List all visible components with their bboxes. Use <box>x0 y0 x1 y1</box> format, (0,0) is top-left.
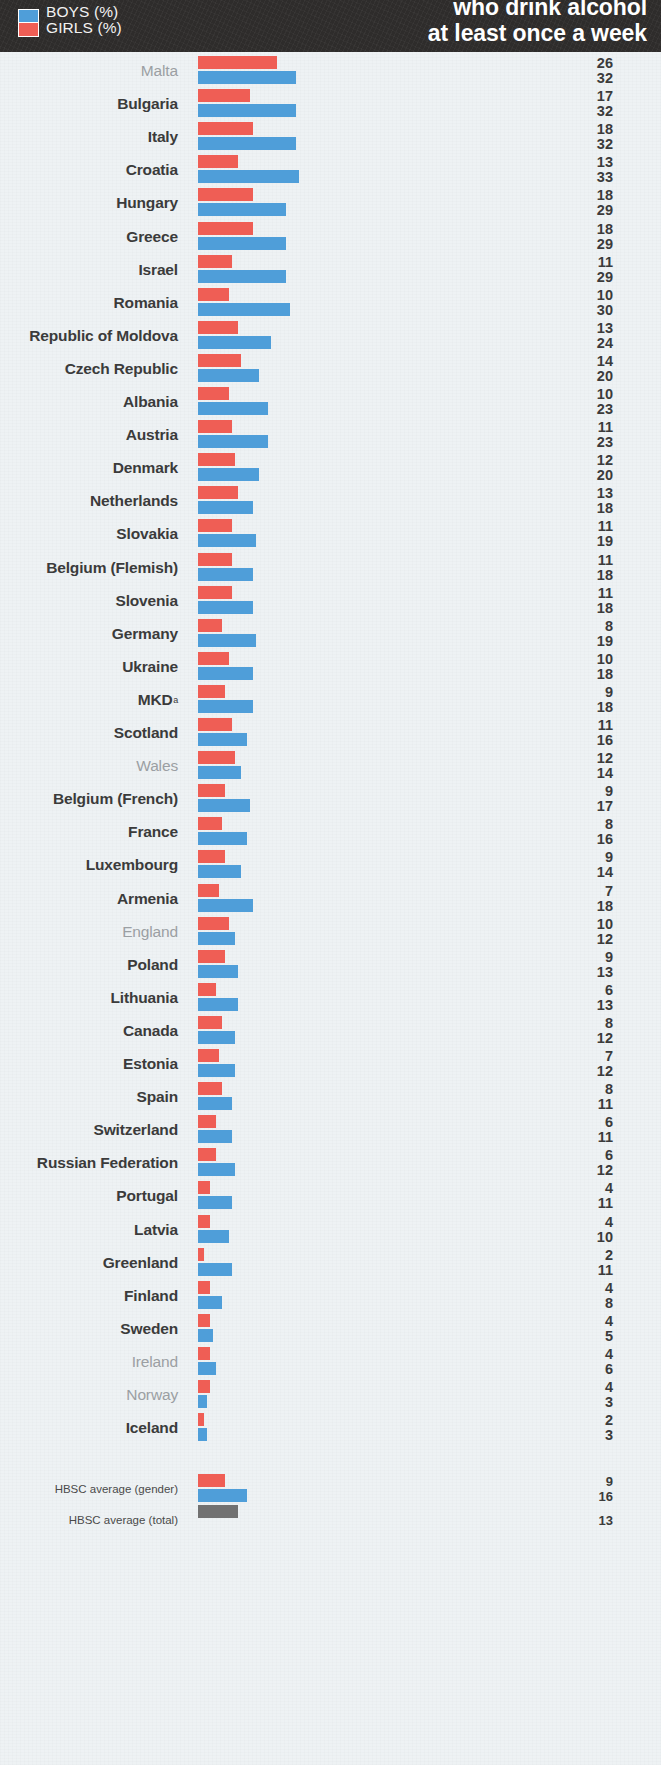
value-pair: 612 <box>520 1146 613 1180</box>
chart-row: Slovakia1119 <box>0 517 661 551</box>
value-girls: 8 <box>605 1016 613 1031</box>
bar-group <box>198 1016 235 1046</box>
value-pair: 718 <box>520 882 613 916</box>
value-pair: 613 <box>520 981 613 1015</box>
chart-row: Germany819 <box>0 617 661 651</box>
bar-girls <box>198 1148 216 1161</box>
country-label: Spain <box>0 1080 186 1114</box>
value-boys: 32 <box>597 137 613 152</box>
country-label: Switzerland <box>0 1113 186 1147</box>
chart-row: Lithuania613 <box>0 981 661 1015</box>
bar-girls <box>198 56 277 69</box>
country-label: Estonia <box>0 1047 186 1081</box>
bar-group <box>198 718 247 748</box>
chart-row: Portugal411 <box>0 1179 661 1213</box>
legend-swatches <box>18 9 39 37</box>
bar-boys <box>198 799 250 812</box>
value-girls: 11 <box>598 718 613 733</box>
chart-row: England1012 <box>0 915 661 949</box>
average-row: HBSC average (gender)916 <box>0 1472 661 1506</box>
value-pair: 23 <box>520 1411 613 1445</box>
bar-girls <box>198 1115 216 1128</box>
bar-girls <box>198 586 232 599</box>
value-boys: 18 <box>597 667 613 682</box>
value-girls: 2 <box>605 1413 613 1428</box>
value-boys: 30 <box>597 303 613 318</box>
bar-boys <box>198 700 253 713</box>
value-girls: 13 <box>597 155 613 170</box>
value-girls: 2 <box>605 1248 613 1263</box>
bar-boys <box>198 237 286 250</box>
bar-girls <box>198 652 229 665</box>
chart-row: Israel1129 <box>0 253 661 287</box>
value-girls: 12 <box>597 751 613 766</box>
bar-group <box>198 453 259 483</box>
country-label: Wales <box>0 749 186 783</box>
bar-group <box>198 1505 238 1535</box>
bar-group <box>198 122 296 152</box>
value-boys: 17 <box>597 799 613 814</box>
bar-boys <box>198 336 271 349</box>
bar-girls <box>198 155 238 168</box>
bar-boys <box>198 468 259 481</box>
chart-row: Armenia718 <box>0 882 661 916</box>
country-label: Belgium (Flemish) <box>0 551 186 585</box>
bar-boys <box>198 1097 232 1110</box>
value-pair: 410 <box>520 1213 613 1247</box>
country-label: Bulgaria <box>0 87 186 121</box>
chart-row: Ireland46 <box>0 1345 661 1379</box>
chart-title-line-2: at least once a week <box>428 20 647 46</box>
legend-label-girls: GIRLS (%) <box>46 20 122 36</box>
country-label: Portugal <box>0 1179 186 1213</box>
bar-group <box>198 1248 232 1278</box>
value-pair: 816 <box>520 815 613 849</box>
value-boys: 5 <box>605 1329 613 1344</box>
value-pair: 1012 <box>520 915 613 949</box>
value-pair: 916 <box>520 1472 613 1506</box>
bar-group <box>198 1215 229 1245</box>
bar-girls <box>198 1181 210 1194</box>
value-boys: 14 <box>597 766 613 781</box>
value-girls: 18 <box>597 222 613 237</box>
bar-girls <box>198 321 238 334</box>
chart-title-line-1: who drink alcohol <box>428 0 647 20</box>
bar-boys <box>198 568 253 581</box>
country-label: Russian Federation <box>0 1146 186 1180</box>
bar-boys <box>198 435 268 448</box>
country-label: Hungary <box>0 186 186 220</box>
bar-girls <box>198 1082 222 1095</box>
chart-row: Belgium (French)917 <box>0 782 661 816</box>
country-label: Scotland <box>0 716 186 750</box>
bar-boys <box>198 501 253 514</box>
legend-swatch-girls <box>18 23 39 37</box>
chart-row: Croatia1333 <box>0 153 661 187</box>
value-girls: 14 <box>597 354 613 369</box>
value-pair: 917 <box>520 782 613 816</box>
value-pair: 1829 <box>520 186 613 220</box>
country-label: Latvia <box>0 1213 186 1247</box>
value-girls: 6 <box>605 1115 613 1130</box>
country-label: Iceland <box>0 1411 186 1445</box>
bar-girls <box>198 387 229 400</box>
bar-group <box>198 387 268 417</box>
country-label: Italy <box>0 120 186 154</box>
bar-girls <box>198 188 253 201</box>
chart-row: Finland48 <box>0 1279 661 1313</box>
chart-row: Scotland1116 <box>0 716 661 750</box>
chart-row: Netherlands1318 <box>0 484 661 518</box>
bar-girls <box>198 917 229 930</box>
value-pair: 1829 <box>520 220 613 254</box>
bar-group <box>198 222 286 252</box>
value-boys: 16 <box>597 832 613 847</box>
value-pair: 913 <box>520 948 613 982</box>
country-label: Germany <box>0 617 186 651</box>
bar-boys <box>198 998 238 1011</box>
value-girls: 9 <box>605 850 613 865</box>
value-boys: 29 <box>597 203 613 218</box>
bar-boys <box>198 1296 222 1309</box>
chart-row: Romania1030 <box>0 286 661 320</box>
chart-row: Slovenia1118 <box>0 584 661 618</box>
bar-group <box>198 652 253 682</box>
bar-group <box>198 950 238 980</box>
value-boys: 19 <box>597 634 613 649</box>
